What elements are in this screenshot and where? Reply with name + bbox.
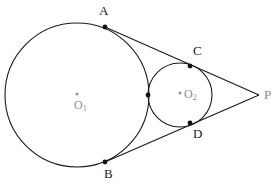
circle-center-label-o2: O2 — [184, 88, 197, 100]
center-label-o1-letter: O — [74, 98, 83, 112]
center-dot-o1 — [75, 92, 78, 95]
center-label-o2-subscript: 2 — [193, 93, 197, 102]
point-marker-tangency — [146, 93, 151, 98]
point-label-p: P — [264, 88, 271, 101]
point-marker-c — [188, 64, 193, 69]
geometry-figure — [0, 0, 272, 183]
center-dot-o2 — [178, 91, 181, 94]
point-label-d: D — [193, 127, 202, 140]
circle-center-label-o1: O1 — [74, 99, 87, 111]
circle-o2-outline — [148, 63, 212, 127]
point-label-b: B — [104, 167, 113, 180]
point-label-a: A — [99, 4, 108, 17]
point-marker-d — [188, 121, 193, 126]
tangent-line-b-p — [105, 95, 259, 162]
center-label-o1-subscript: 1 — [83, 104, 87, 113]
center-label-o2-letter: O — [184, 87, 193, 101]
point-label-c: C — [193, 44, 202, 57]
point-marker-b — [103, 160, 108, 165]
diagram-canvas: A B C D P O1 O2 — [0, 0, 272, 183]
point-marker-a — [103, 25, 108, 30]
tangent-line-a-p — [105, 27, 259, 95]
